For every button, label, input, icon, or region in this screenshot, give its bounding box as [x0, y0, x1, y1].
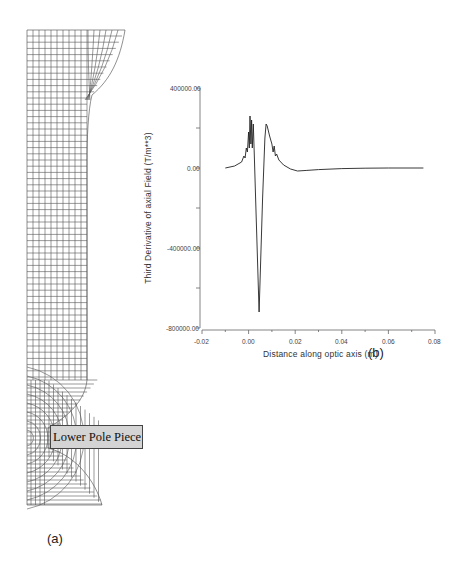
x-tick-label: 0.08: [428, 338, 441, 345]
y-tick-label: 0.00: [187, 165, 200, 172]
y-tick-label: -800000.00: [166, 325, 199, 332]
figure-canvas: [0, 0, 463, 573]
lower-pole-piece-label: Lower Pole Piece: [50, 425, 143, 449]
x-tick-label: 0.04: [335, 338, 348, 345]
data-line: [225, 116, 423, 312]
y-tick-label: -400000.00: [167, 245, 200, 252]
y-tick-label: 400000.00: [170, 85, 201, 92]
y-axis-title: Third Derivative of axial Field (T/m**3): [143, 132, 153, 284]
chart-axes: [196, 88, 435, 334]
x-tick-label: -0.02: [194, 338, 209, 345]
x-tick-label: 0.02: [289, 338, 302, 345]
figure: Lower Pole Piece (a) (b) 400000.00 0.00 …: [0, 0, 463, 573]
x-tick-label: 0.06: [382, 338, 395, 345]
x-axis-title: Distance along optic axis (m): [263, 349, 378, 359]
x-tick-label: 0.00: [242, 338, 255, 345]
panel-label-a: (a): [47, 531, 63, 546]
